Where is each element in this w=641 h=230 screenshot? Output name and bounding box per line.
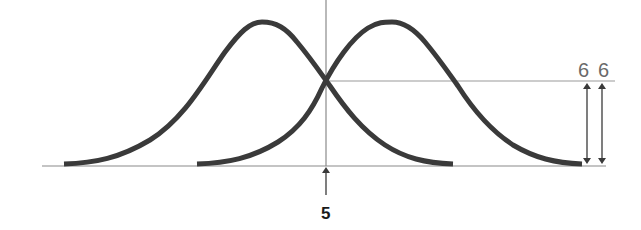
height-label-2: 6: [598, 59, 609, 81]
bell-curves-diagram: 6 6 5: [0, 0, 641, 230]
left-bell-curve: [64, 22, 453, 164]
right-bell-curve: [197, 22, 582, 164]
intersection-label: 5: [321, 204, 330, 223]
height-label-1: 6: [578, 59, 589, 81]
